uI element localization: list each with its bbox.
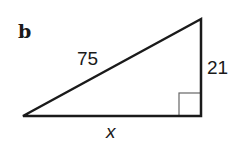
- right-triangle: [23, 19, 201, 116]
- triangle-diagram: [0, 0, 240, 159]
- right-angle-marker: [179, 93, 201, 116]
- hypotenuse-label: 75: [77, 49, 98, 68]
- part-label: b: [18, 22, 31, 41]
- horizontal-leg-label: x: [106, 122, 116, 141]
- vertical-leg-label: 21: [207, 58, 228, 77]
